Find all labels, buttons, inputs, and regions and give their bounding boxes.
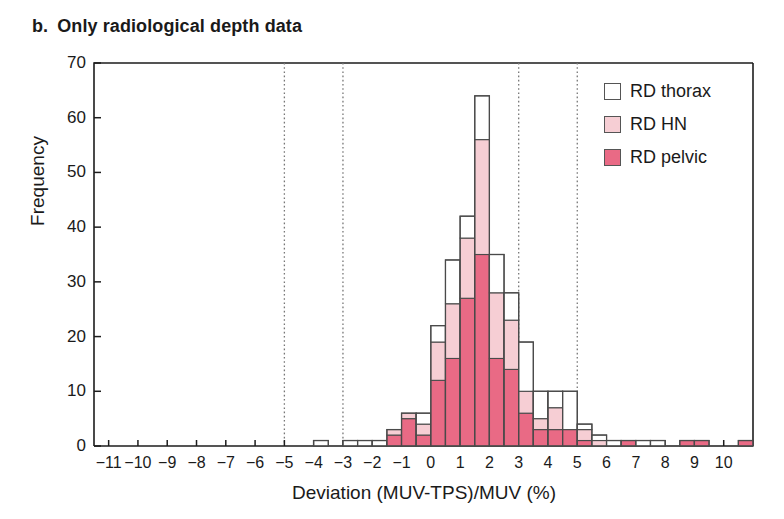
bar-segment-hn [387, 430, 402, 435]
bar-segment-hn [431, 342, 446, 380]
bar-segment-thorax [592, 435, 607, 440]
y-tick-group [94, 63, 101, 446]
bar-segment-hn [548, 408, 563, 430]
legend-swatch-rd-pelvic [604, 149, 621, 166]
bar-segment-thorax [416, 413, 431, 424]
bar-segment-thorax [489, 255, 504, 293]
y-tick-label: 70 [38, 53, 86, 73]
x-tick-label: −7 [217, 454, 235, 472]
x-tick-label: −5 [275, 454, 293, 472]
bar-segment-thorax [563, 391, 578, 429]
legend-item-rd-pelvic: RD pelvic [604, 144, 711, 171]
x-tick-label: 4 [544, 454, 553, 472]
bar-segment-pelvic [533, 430, 548, 446]
x-tick-label: 7 [631, 454, 640, 472]
bar-segment-thorax [533, 391, 548, 418]
bar-segment-thorax [607, 441, 622, 446]
bar-segment-thorax [548, 391, 563, 407]
bar-segment-thorax [504, 293, 519, 320]
bar-segment-hn [402, 413, 417, 418]
x-tick-label: −10 [124, 454, 151, 472]
x-tick-label: −11 [96, 454, 122, 472]
bar-segment-hn [489, 293, 504, 359]
x-tick-label: 8 [661, 454, 670, 472]
x-tick-label: −6 [246, 454, 264, 472]
y-tick-label: 10 [38, 381, 86, 401]
bar-segment-thorax [475, 96, 490, 140]
bar-segment-hn [577, 430, 592, 441]
bar-segment-pelvic [577, 441, 592, 446]
bar-segment-pelvic [387, 435, 402, 446]
bar-segment-pelvic [563, 430, 578, 446]
bar-segment-pelvic [519, 413, 534, 446]
bar-segment-hn [533, 419, 548, 430]
y-tick-label: 30 [38, 272, 86, 292]
bar-segment-thorax [445, 260, 460, 304]
x-tick-label: 2 [485, 454, 494, 472]
bar-segment-pelvic [694, 441, 709, 446]
bar-segment-thorax [577, 424, 592, 429]
bar-segment-thorax [636, 441, 651, 446]
bar-segment-pelvic [416, 435, 431, 446]
bar-segment-pelvic [680, 441, 695, 446]
bar-segment-thorax [343, 441, 358, 446]
bar-segment-pelvic [621, 441, 636, 446]
legend-swatch-rd-hn [604, 116, 621, 133]
y-tick-label: 20 [38, 327, 86, 347]
bar-segment-hn [416, 424, 431, 435]
x-tick-label: 0 [426, 454, 435, 472]
bar-segment-pelvic [738, 441, 753, 446]
x-tick-label: −4 [305, 454, 323, 472]
bar-segment-thorax [372, 441, 387, 446]
bar-segment-pelvic [489, 358, 504, 446]
x-tick-label: 10 [715, 454, 733, 472]
bar-segment-thorax [358, 441, 373, 446]
x-tick-label: −2 [363, 454, 381, 472]
legend-label-rd-pelvic: RD pelvic [630, 147, 707, 168]
x-tick-label: 1 [456, 454, 465, 472]
bar-segment-hn [592, 441, 607, 446]
legend-swatch-rd-thorax [604, 83, 621, 100]
x-axis-title: Deviation (MUV-TPS)/MUV (%) [94, 482, 754, 504]
legend-item-rd-hn: RD HN [604, 111, 711, 138]
x-tick-label: −3 [334, 454, 352, 472]
y-tick-label: 40 [38, 217, 86, 237]
bar-segment-hn [460, 238, 475, 298]
bar-segment-pelvic [431, 380, 446, 446]
bar-segment-pelvic [402, 419, 417, 446]
bar-segment-pelvic [548, 430, 563, 446]
bar-segment-hn [504, 320, 519, 369]
figure-panel-b: b.Only radiological depth data Frequency… [0, 0, 784, 519]
bar-segment-thorax [650, 441, 665, 446]
bar-segment-hn [445, 304, 460, 359]
x-tick-label: −1 [392, 454, 410, 472]
x-tick-label: −9 [158, 454, 176, 472]
legend-label-rd-thorax: RD thorax [630, 81, 711, 102]
x-tick-label: 6 [602, 454, 611, 472]
x-tick-label: −8 [187, 454, 205, 472]
bar-segment-thorax [460, 216, 475, 238]
bar-segment-pelvic [475, 255, 490, 447]
bar-segment-pelvic [460, 298, 475, 446]
x-tick-label: 3 [514, 454, 523, 472]
bar-segment-hn [519, 391, 534, 413]
legend-item-rd-thorax: RD thorax [604, 78, 711, 105]
bar-segment-pelvic [504, 369, 519, 446]
legend-label-rd-hn: RD HN [630, 114, 687, 135]
bar-segment-thorax [314, 441, 329, 446]
y-tick-label: 60 [38, 108, 86, 128]
y-tick-label: 0 [38, 436, 86, 456]
bar-segment-pelvic [445, 358, 460, 446]
x-tick-label: 5 [573, 454, 582, 472]
x-tick-label: 9 [690, 454, 699, 472]
bar-segment-thorax [431, 326, 446, 342]
bar-segment-hn [475, 140, 490, 255]
legend: RD thoraxRD HNRD pelvic [604, 78, 711, 177]
y-tick-label: 50 [38, 162, 86, 182]
bar-segment-thorax [519, 342, 534, 391]
